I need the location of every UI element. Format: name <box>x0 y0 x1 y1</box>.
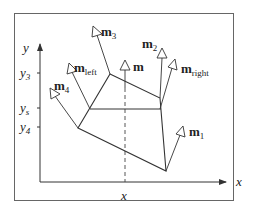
label-m: m <box>133 59 144 74</box>
x-axis-label: x <box>235 174 242 189</box>
y3-label: y3 <box>18 65 31 82</box>
vector-m-right <box>160 59 177 109</box>
label-m-right: mright <box>181 61 209 78</box>
ys-label: ys <box>18 100 30 117</box>
quadrilateral-normals-diagram: y x y3 ys y4 x m3 mleft <box>0 0 254 222</box>
y4-label: y4 <box>18 119 31 136</box>
label-m-left: mleft <box>74 60 97 77</box>
x-tick-label: x <box>120 188 127 203</box>
label-m2: m2 <box>142 36 157 53</box>
label-m4: m4 <box>54 78 70 95</box>
vector-m1 <box>166 126 185 171</box>
diagram-frame <box>15 14 234 201</box>
label-m1: m1 <box>189 124 204 141</box>
vector-m <box>120 60 130 88</box>
quadrilateral <box>78 74 166 171</box>
label-m3: m3 <box>101 24 117 41</box>
y-axis-label: y <box>21 40 29 55</box>
